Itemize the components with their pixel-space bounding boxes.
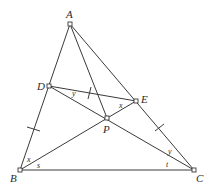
point-e [134,99,138,103]
point-p [105,116,109,120]
angle-label-pcb: t [166,160,169,169]
label-e: E [140,93,148,105]
label-d: D [36,80,45,92]
label-b: B [10,172,17,184]
label-c: C [196,172,204,184]
point-d [47,84,51,88]
side-ab [20,24,70,170]
segment-ap [70,24,107,118]
segment-be [20,101,136,170]
geometry-diagram: A D E P B C x s y x y t [0,0,214,196]
label-p: P [102,123,110,135]
angle-label-edp: y [71,89,76,98]
point-b [18,168,22,172]
label-a: A [65,8,73,20]
point-a [68,22,72,26]
angle-label-pbc: s [37,161,40,170]
angle-label-dbp: x [26,155,31,164]
angle-label-dep: x [118,101,123,110]
angle-label-ecp: y [167,147,172,156]
